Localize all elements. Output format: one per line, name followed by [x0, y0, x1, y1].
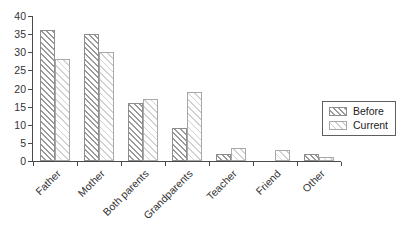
y-axis-line — [32, 16, 33, 162]
bar-current-teacher — [231, 148, 246, 161]
legend-swatch-before — [329, 107, 347, 116]
y-axis-tick — [28, 107, 32, 108]
y-axis-tick-label: 30 — [2, 47, 26, 57]
legend-swatch-current — [329, 121, 347, 130]
x-axis-line — [32, 161, 341, 162]
bar-before-both-parents — [128, 103, 143, 161]
legend-item-current: Current — [329, 120, 388, 131]
bar-current-friend — [275, 150, 290, 161]
legend-label: Current — [353, 120, 388, 131]
bar-before-teacher — [216, 154, 231, 161]
legend-label: Before — [353, 106, 384, 117]
y-axis-tick-label: 15 — [2, 102, 26, 112]
y-axis-tick — [28, 70, 32, 71]
y-axis-tick — [28, 143, 32, 144]
y-axis-tick-label: 0 — [2, 156, 26, 166]
y-axis-tick — [28, 52, 32, 53]
bar-before-other — [304, 154, 319, 161]
bar-before-father — [40, 30, 55, 161]
bar-chart-figure: 0510152025303540FatherMotherBoth parents… — [0, 0, 406, 227]
bar-current-mother — [99, 52, 114, 161]
bar-current-other — [319, 157, 334, 161]
bar-current-both-parents — [143, 99, 158, 161]
x-axis-tick — [33, 162, 34, 166]
y-axis-tick — [28, 89, 32, 90]
y-axis-tick-label: 5 — [2, 138, 26, 148]
x-axis-tick — [165, 162, 166, 166]
bar-current-father — [55, 59, 70, 161]
bar-current-grandparents — [187, 92, 202, 161]
legend-item-before: Before — [329, 106, 388, 117]
y-axis-tick-label: 40 — [2, 11, 26, 21]
y-axis-tick — [28, 161, 32, 162]
x-axis-tick — [297, 162, 298, 166]
x-axis-tick — [121, 162, 122, 166]
bar-before-grandparents — [172, 128, 187, 161]
y-axis-tick-label: 35 — [2, 29, 26, 39]
x-axis-tick — [253, 162, 254, 166]
legend: BeforeCurrent — [322, 101, 396, 136]
x-axis-tick — [341, 162, 342, 166]
y-axis-tick-label: 20 — [2, 84, 26, 94]
y-axis-tick-label: 10 — [2, 120, 26, 130]
x-axis-tick — [209, 162, 210, 166]
y-axis-tick — [28, 16, 32, 17]
y-axis-tick-label: 25 — [2, 65, 26, 75]
x-axis-tick — [77, 162, 78, 166]
y-axis-tick — [28, 34, 32, 35]
bar-before-mother — [84, 34, 99, 161]
y-axis-tick — [28, 125, 32, 126]
